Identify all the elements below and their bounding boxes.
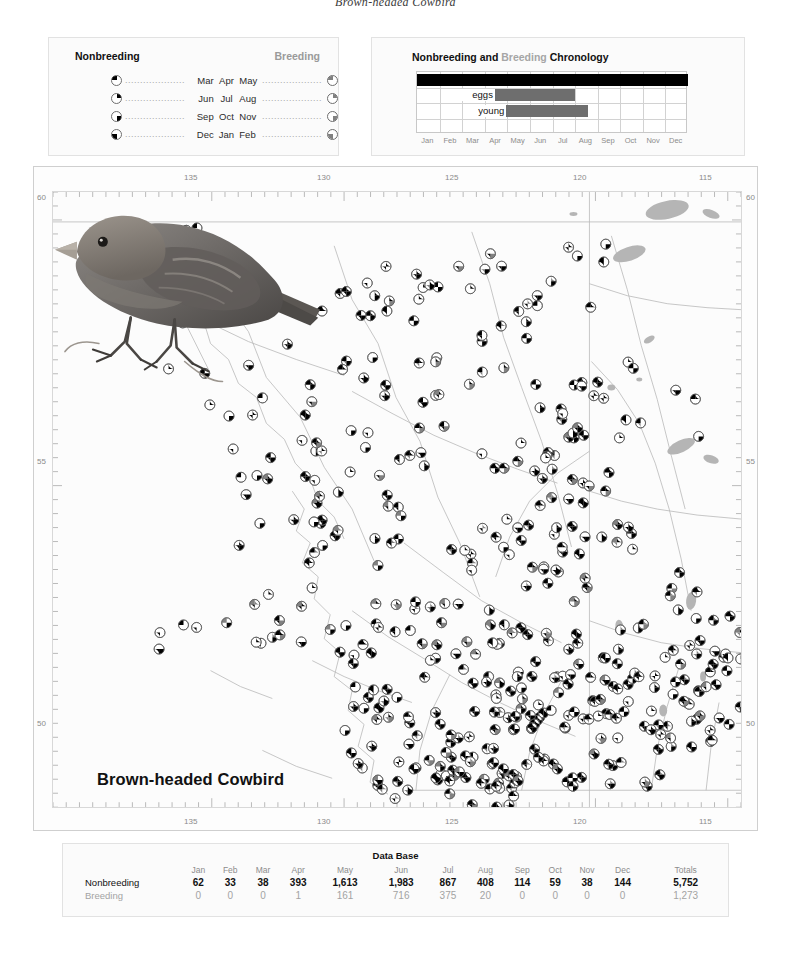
map-occurrence-symbol xyxy=(705,725,715,735)
map-occurrence-symbol xyxy=(582,583,592,593)
map-occurrence-symbol xyxy=(557,542,567,552)
map-occurrence-symbol xyxy=(589,391,599,401)
table-header-blank xyxy=(71,864,183,876)
map-occurrence-symbol xyxy=(244,360,254,370)
map-occurrence-symbol xyxy=(646,706,656,716)
map-occurrence-symbol xyxy=(392,692,402,702)
map-occurrence-symbol xyxy=(595,694,605,704)
map-occurrence-symbol xyxy=(419,461,429,471)
map-occurrence-symbol xyxy=(236,472,246,482)
map-occurrence-symbol xyxy=(359,703,369,713)
map-occurrence-symbol xyxy=(554,688,564,698)
legend-leader-dots-left: .................... xyxy=(125,111,189,121)
map-occurrence-symbol xyxy=(394,455,404,465)
map-occurrence-symbol xyxy=(573,423,583,433)
map-occurrence-symbol xyxy=(532,291,542,301)
map-occurrence-symbol xyxy=(514,306,524,316)
table-cell-count: 1 xyxy=(279,889,316,902)
map-occurrence-symbol xyxy=(604,467,614,477)
map-occurrence-symbol xyxy=(414,423,424,433)
map-occurrence-symbol xyxy=(516,683,526,693)
map-occurrence-symbol xyxy=(675,568,685,578)
map-occurrence-symbol xyxy=(464,379,474,389)
map-lat-label-left-50: 50 xyxy=(37,719,46,728)
map-plot-area[interactable] xyxy=(52,191,742,808)
map-occurrence-symbol xyxy=(521,581,531,591)
map-occurrence-symbol xyxy=(679,675,689,685)
map-occurrence-symbol xyxy=(616,758,626,768)
map-occurrence-symbol xyxy=(432,640,442,650)
map-occurrence-symbol xyxy=(565,670,575,680)
map-occurrence-symbol xyxy=(489,707,499,717)
map-occurrence-symbol xyxy=(263,589,273,599)
map-lat-label-right-50: 50 xyxy=(746,719,755,728)
map-occurrence-symbol xyxy=(660,652,670,662)
map-occurrence-symbol xyxy=(382,490,392,500)
map-occurrence-symbol xyxy=(537,473,547,483)
table-header-row: JanFebMarAprMayJunJulAugSepOctNovDecTota… xyxy=(71,864,720,876)
map-occurrence-symbol xyxy=(224,411,234,421)
map-graphic xyxy=(53,192,741,807)
map-occurrence-symbol xyxy=(539,564,549,574)
map-occurrence-symbol xyxy=(454,261,464,271)
map-occurrence-symbol xyxy=(425,280,435,290)
chronology-gridline-horizontal xyxy=(417,119,686,120)
table-cell-count: 161 xyxy=(317,889,373,902)
map-occurrence-symbol xyxy=(484,605,494,615)
map-occurrence-symbol xyxy=(274,615,284,625)
map-occurrence-symbol xyxy=(359,373,369,383)
map-occurrence-symbol xyxy=(368,353,378,363)
map-occurrence-symbol xyxy=(709,615,719,625)
map-occurrence-symbol xyxy=(531,657,541,667)
map-occurrence-symbol xyxy=(353,759,363,769)
map-occurrence-symbol xyxy=(403,785,413,795)
map-occurrence-symbol xyxy=(714,713,724,723)
chronology-month-label: Oct xyxy=(619,136,642,145)
map-occurrence-symbol xyxy=(692,587,702,597)
map-occurrence-symbol xyxy=(255,518,265,528)
map-occurrence-symbol xyxy=(453,599,463,609)
map-occurrence-symbol xyxy=(384,296,394,306)
map-occurrence-symbol xyxy=(580,532,590,542)
map-occurrence-symbol xyxy=(420,672,430,682)
legend-month-right: Aug xyxy=(239,93,261,104)
map-occurrence-symbol xyxy=(571,629,581,639)
map-occurrence-symbol xyxy=(612,659,622,669)
map-lat-label-left-60: 60 xyxy=(37,193,46,202)
map-occurrence-symbol xyxy=(412,269,422,279)
legend-month-right: May xyxy=(239,75,261,86)
map-occurrence-symbol xyxy=(597,532,607,542)
map-occurrence-symbol xyxy=(460,545,470,555)
map-occurrence-symbol xyxy=(405,450,415,460)
map-occurrence-symbol xyxy=(297,435,307,445)
map-occurrence-symbol xyxy=(613,684,623,694)
map-occurrence-symbol xyxy=(396,511,406,521)
table-header-month: Mar xyxy=(247,864,280,876)
map-occurrence-symbol xyxy=(521,317,531,327)
map-occurrence-symbol xyxy=(599,393,609,403)
table-cell-count: 408 xyxy=(467,876,504,889)
chronology-title-nonbreeding: Nonbreeding and xyxy=(412,51,501,63)
map-occurrence-symbol xyxy=(403,712,413,722)
map-occurrence-symbol xyxy=(424,755,434,765)
map-occurrence-symbol xyxy=(179,620,189,630)
map-occurrence-symbol xyxy=(599,257,609,267)
nonbreeding-pie-icon xyxy=(111,129,122,140)
map-occurrence-symbol xyxy=(390,627,400,637)
table-cell-count: 33 xyxy=(214,876,247,889)
map-occurrence-symbol xyxy=(547,464,557,474)
map-occurrence-symbol xyxy=(370,534,380,544)
map-occurrence-symbol xyxy=(418,397,428,407)
legend-leader-dots-right: .................... xyxy=(262,129,324,139)
map-occurrence-symbol xyxy=(310,475,320,485)
legend-leader-dots-left: .................... xyxy=(125,93,189,103)
chronology-month-label: Dec xyxy=(664,136,687,145)
table-cell-count: 114 xyxy=(504,876,540,889)
map-occurrence-symbol xyxy=(691,613,701,623)
table-cell-count: 0 xyxy=(504,889,540,902)
map-occurrence-symbol xyxy=(445,789,455,799)
map-occurrence-symbol xyxy=(467,800,477,807)
map-occurrence-symbol xyxy=(499,620,509,630)
map-lon-label-bottom-135: 135 xyxy=(184,817,197,826)
chronology-bar-presence xyxy=(417,74,688,86)
